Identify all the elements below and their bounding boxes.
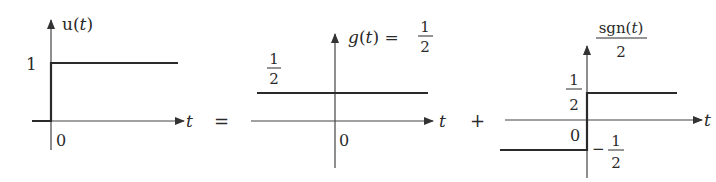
level-denominator: 2 — [269, 70, 279, 88]
lower-level-sign: − — [592, 140, 605, 158]
y-label-numerator: sgn(t) — [599, 19, 644, 37]
y-label: u(t) — [62, 14, 93, 34]
plus-sign: + — [470, 110, 485, 131]
panel-half-signum: sgn(t) 2 1 2 0 − 1 2 t — [500, 19, 711, 178]
equals-sign: = — [214, 111, 229, 132]
panel-unit-step: u(t) 1 0 t — [26, 14, 193, 150]
level-label: 1 — [26, 54, 37, 74]
signal-decomposition-diagram: u(t) 1 0 t = g(t) = 1 2 1 2 0 t + sgn(t)… — [0, 0, 716, 182]
signum-signal — [500, 93, 677, 150]
y-label: g(t) = — [348, 27, 399, 47]
level-numerator: 1 — [269, 50, 279, 68]
lower-level-denominator: 2 — [611, 154, 621, 172]
y-label-numerator: 1 — [420, 18, 430, 36]
y-label-denominator: 2 — [420, 38, 430, 56]
origin-label: 0 — [339, 131, 349, 150]
t-label: t — [186, 111, 193, 131]
origin-label: 0 — [570, 126, 580, 145]
panel-constant-half: g(t) = 1 2 1 2 0 t — [251, 18, 446, 168]
lower-level-numerator: 1 — [611, 132, 621, 150]
origin-label: 0 — [56, 131, 66, 150]
upper-level-numerator: 1 — [569, 71, 579, 89]
t-label: t — [439, 111, 446, 131]
y-label-denominator: 2 — [616, 43, 626, 61]
step-signal — [32, 63, 178, 121]
t-label: t — [704, 110, 711, 130]
upper-level-denominator: 2 — [569, 96, 579, 114]
